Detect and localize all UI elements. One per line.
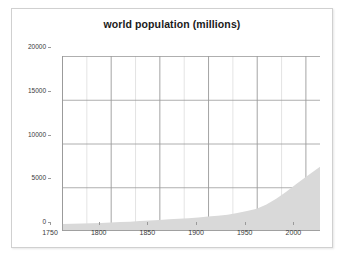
- x-axis-tick-label: 1850: [140, 229, 156, 236]
- x-axis-tick-label: 1800: [91, 229, 107, 236]
- x-axis-tick-mark: [50, 222, 51, 225]
- x-axis-tick-label: 1900: [188, 229, 204, 236]
- x-axis-tick-mark: [147, 222, 148, 225]
- x-axis-tick-label: 1750: [42, 229, 58, 236]
- x-axis: 175018001850190019502000: [0, 0, 344, 259]
- x-axis-tick-mark: [99, 222, 100, 225]
- x-axis-tick-label: 1950: [237, 229, 253, 236]
- x-axis-tick-mark: [196, 222, 197, 225]
- x-axis-tick-label: 2000: [286, 229, 302, 236]
- x-axis-tick-mark: [293, 222, 294, 225]
- x-axis-tick-mark: [245, 222, 246, 225]
